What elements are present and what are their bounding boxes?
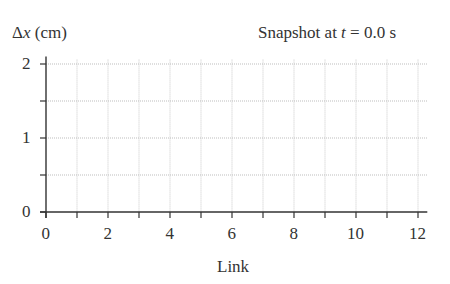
x-tick-label: 0 (42, 225, 51, 242)
x-tick-label: 12 (409, 225, 426, 242)
x-axis-label: Link (217, 258, 249, 275)
x-tick-label: 4 (166, 225, 175, 242)
y-tick-label: 0 (22, 203, 31, 220)
y-tick-label: 1 (22, 129, 31, 146)
x-tick-label: 2 (104, 225, 113, 242)
plot-area (0, 0, 450, 284)
x-tick-label: 10 (347, 225, 364, 242)
x-tick-label: 6 (228, 225, 237, 242)
x-tick-label: 8 (290, 225, 299, 242)
y-tick-label: 2 (22, 55, 31, 72)
